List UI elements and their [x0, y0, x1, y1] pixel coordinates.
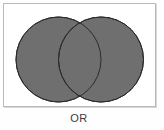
operation-label: OR: [0, 112, 158, 125]
figure-root: OR: [0, 0, 164, 130]
diagram-panel: [3, 3, 156, 107]
venn-diagram: [4, 4, 155, 106]
